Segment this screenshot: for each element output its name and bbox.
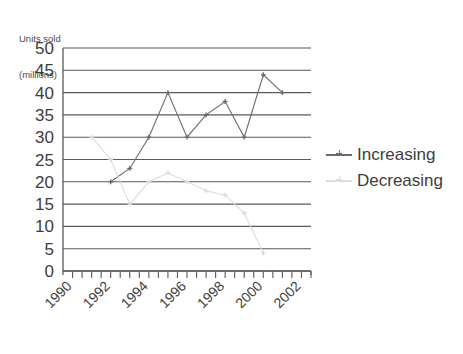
data-series-layer — [89, 72, 285, 255]
data-point-increasing — [146, 135, 151, 140]
y-tick-label: 30 — [35, 128, 54, 147]
legend-marker-increasing — [336, 150, 342, 156]
plus-marker-icon — [326, 148, 352, 162]
x-tick-label: 2000 — [232, 278, 265, 311]
legend-item-decreasing[interactable]: Decreasing — [326, 168, 458, 194]
y-tick-label: 40 — [35, 84, 54, 103]
x-tick-label: 1996 — [156, 278, 189, 311]
y-tick-label: 35 — [35, 106, 54, 125]
y-tick-label: 15 — [35, 195, 54, 214]
y-tick-label: 25 — [35, 151, 54, 170]
legend: Increasing Decreasing — [326, 142, 458, 194]
gridlines — [63, 48, 311, 271]
legend-item-increasing[interactable]: Increasing — [326, 142, 458, 168]
data-point-decreasing — [261, 251, 266, 256]
legend-label-increasing: Increasing — [357, 145, 435, 165]
x-axis-tick-labels: 1990199219941996199820002002 — [41, 278, 303, 311]
x-tick-label: 1992 — [79, 278, 112, 311]
series-line-increasing — [111, 75, 283, 182]
x-tick-label: 1994 — [118, 278, 151, 311]
x-tick-label: 1990 — [41, 278, 74, 311]
x-tick-label: 2002 — [270, 278, 303, 311]
y-tick-label: 10 — [35, 217, 54, 236]
series-line-decreasing — [92, 137, 264, 253]
data-point-decreasing — [185, 179, 190, 184]
y-tick-label: 45 — [35, 61, 54, 80]
plus-marker-icon — [326, 174, 352, 188]
data-point-decreasing — [204, 188, 209, 193]
data-point-increasing — [242, 135, 247, 140]
y-tick-label: 5 — [45, 240, 54, 259]
data-point-increasing — [166, 90, 171, 95]
x-tick-label: 1998 — [194, 278, 227, 311]
y-tick-label: 20 — [35, 173, 54, 192]
line-chart: Units sold (millions) 051015202530354045… — [0, 0, 463, 354]
y-axis-tick-labels: 05101520253035404550 — [35, 39, 54, 281]
y-tick-label: 0 — [45, 262, 54, 281]
data-point-decreasing — [166, 170, 171, 175]
legend-marker-decreasing — [336, 176, 342, 182]
legend-label-decreasing: Decreasing — [357, 171, 443, 191]
y-tick-label: 50 — [35, 39, 54, 58]
axis-lines — [63, 48, 311, 275]
x-axis-ticks — [73, 271, 311, 278]
